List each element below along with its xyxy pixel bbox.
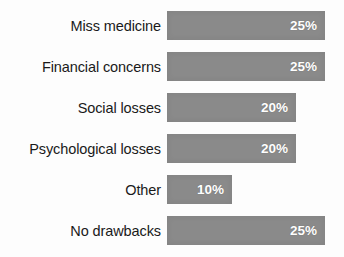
bar-track: 10% [167,175,344,204]
bar-row: Psychological losses20% [0,134,344,163]
bar-fill: 10% [167,175,232,204]
bar-fill: 20% [167,134,296,163]
bar-category-label: No drawbacks [0,223,167,239]
bar-row: Financial concerns25% [0,52,344,81]
bar-fill: 25% [167,52,325,81]
bar-fill: 20% [167,93,296,122]
bar-row: No drawbacks25% [0,216,344,245]
bar-track: 20% [167,93,344,122]
bar-track: 20% [167,134,344,163]
bar-value-label: 25% [290,18,317,33]
bar-category-label: Social losses [0,100,167,116]
bar-track: 25% [167,52,344,81]
bar-category-label: Psychological losses [0,141,167,157]
bar-track: 25% [167,11,344,40]
bar-row: Social losses20% [0,93,344,122]
bar-category-label: Other [0,182,167,198]
bar-value-label: 20% [261,100,288,115]
bar-track: 25% [167,216,344,245]
bar-value-label: 25% [290,59,317,74]
horizontal-bar-chart: Miss medicine25%Financial concerns25%Soc… [0,0,344,257]
bar-category-label: Miss medicine [0,18,167,34]
bar-fill: 25% [167,11,325,40]
bar-value-label: 10% [197,182,224,197]
bar-category-label: Financial concerns [0,59,167,75]
bar-row: Miss medicine25% [0,11,344,40]
bar-row: Other10% [0,175,344,204]
bar-fill: 25% [167,216,325,245]
bar-value-label: 20% [261,141,288,156]
bar-value-label: 25% [290,223,317,238]
